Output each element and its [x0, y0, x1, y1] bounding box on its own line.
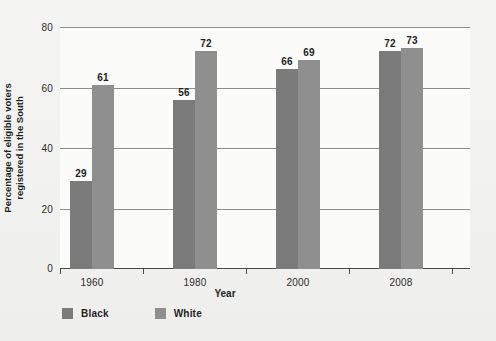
- y-tick-label-80: 80: [41, 22, 53, 33]
- y-tick-label-40: 40: [41, 143, 53, 154]
- bar-value-2000-white: 69: [303, 47, 315, 58]
- x-tick-label-2000: 2000: [286, 277, 309, 288]
- bar-chart: Percentage of eligible voters registered…: [0, 0, 496, 341]
- y-axis-title-line1: Percentage of eligible voters: [2, 83, 13, 212]
- bar-wrap-2000-white: 69: [298, 27, 320, 269]
- x-tick-label-1980: 1980: [183, 277, 206, 288]
- bar-group-2000: 66 69 2000: [276, 27, 320, 269]
- bar-group-2008: 72 73 2008: [379, 27, 423, 269]
- x-tick-label-2008: 2008: [389, 277, 412, 288]
- y-axis-title-line2: registered in the South: [14, 96, 25, 199]
- x-tick-mark-4: [452, 269, 453, 274]
- y-tick-label-0: 0: [47, 263, 53, 274]
- bar-wrap-2000-black: 66: [276, 27, 298, 269]
- bar-value-1960-white: 61: [97, 72, 109, 83]
- bar-2008-black[interactable]: 72: [379, 51, 401, 269]
- legend-label-black: Black: [81, 308, 109, 319]
- bar-value-1980-black: 56: [178, 87, 190, 98]
- bar-value-1980-white: 72: [200, 38, 212, 49]
- x-axis-title: Year: [214, 288, 235, 299]
- bar-wrap-2008-white: 73: [401, 27, 423, 269]
- bar-wrap-2008-black: 72: [379, 27, 401, 269]
- bar-1960-white[interactable]: 61: [92, 85, 114, 270]
- bar-group-1980: 56 72 1980: [173, 27, 217, 269]
- x-tick-mark-3: [349, 269, 350, 274]
- bar-wrap-1980-white: 72: [195, 27, 217, 269]
- bar-1980-black[interactable]: 56: [173, 100, 195, 269]
- y-tick-label-60: 60: [41, 82, 53, 93]
- legend-label-white: White: [174, 308, 202, 319]
- bar-value-2008-black: 72: [384, 38, 396, 49]
- y-tick-label-20: 20: [41, 203, 53, 214]
- x-tick-label-1960: 1960: [80, 277, 103, 288]
- x-tick-mark-0: [60, 269, 61, 274]
- bar-value-2000-black: 66: [281, 56, 293, 67]
- legend-swatch-white-icon: [155, 308, 166, 319]
- bar-wrap-1980-black: 56: [173, 27, 195, 269]
- bar-wrap-1960-white: 61: [92, 27, 114, 269]
- bar-group-1960: 29 61 1960: [70, 27, 114, 269]
- legend-swatch-black-icon: [62, 308, 73, 319]
- bar-1960-black[interactable]: 29: [70, 181, 92, 269]
- bar-1980-white[interactable]: 72: [195, 51, 217, 269]
- legend-item-white[interactable]: White: [155, 308, 202, 319]
- y-axis-title: Percentage of eligible voters registered…: [2, 83, 26, 212]
- bar-2000-black[interactable]: 66: [276, 69, 298, 269]
- legend-item-black[interactable]: Black: [62, 308, 109, 319]
- bar-value-1960-black: 29: [75, 168, 87, 179]
- x-tick-mark-2: [246, 269, 247, 274]
- bar-wrap-1960-black: 29: [70, 27, 92, 269]
- chart-legend: Black White: [62, 308, 202, 319]
- bar-value-2008-white: 73: [406, 35, 418, 46]
- plot-area: 80 60 40 20 0 29 61 1960: [60, 27, 470, 269]
- bar-2008-white[interactable]: 73: [401, 48, 423, 269]
- bar-2000-white[interactable]: 69: [298, 60, 320, 269]
- x-tick-mark-1: [143, 269, 144, 274]
